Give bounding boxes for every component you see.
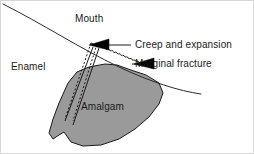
label-mouth: Mouth [75,13,103,25]
label-marginal-fracture: Marginal fracture [135,58,212,70]
label-amalgam: Amalgam [81,101,124,113]
diagram-canvas [1,1,254,154]
label-enamel: Enamel [11,61,46,73]
label-creep-and-expansion: Creep and expansion [135,39,232,51]
amalgam-margin-diagram: Mouth Enamel Amalgam Creep and expansion… [0,0,254,154]
